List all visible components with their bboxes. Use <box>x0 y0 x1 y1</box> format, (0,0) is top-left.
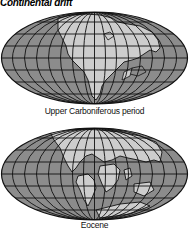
eocene-caption: Eocene <box>0 220 189 230</box>
carboniferous-map <box>0 10 189 106</box>
carboniferous-caption: Upper Carboniferous period <box>0 106 189 116</box>
figure-title: Continental drift <box>0 0 72 8</box>
eocene-map <box>0 126 189 222</box>
